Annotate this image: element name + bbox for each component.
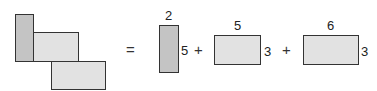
plus-sign-1: +: [194, 42, 203, 57]
equals-sign: =: [126, 42, 135, 57]
plus-sign-2: +: [282, 42, 291, 57]
part2-width-label: 5: [234, 19, 241, 32]
part3-height-label: 3: [361, 45, 368, 58]
part3-rect: [303, 35, 359, 65]
composite-bottom-rect: [51, 61, 106, 90]
composite-tall-rect: [15, 14, 34, 62]
part2-height-label: 3: [264, 45, 271, 58]
part1-width-label: 2: [165, 9, 172, 22]
part2-rect: [214, 35, 261, 65]
part3-width-label: 6: [327, 19, 334, 32]
composite-middle-rect: [33, 32, 79, 62]
part1-height-label: 5: [181, 44, 188, 57]
part1-rect: [159, 25, 179, 73]
